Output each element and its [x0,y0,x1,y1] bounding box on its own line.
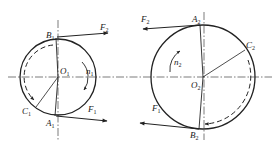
right-tension-F1-arrow [140,123,199,129]
label-F1-left: F1 [87,104,97,115]
label-O1: O1 [60,66,70,77]
label-n2: n2 [174,57,182,68]
right-tension-F2-arrow [143,25,200,29]
label-n1: n1 [86,66,94,77]
label-O2: O2 [191,80,201,91]
right-pulley: A2 B2 C2 O2 n2 F2 F1 [140,12,255,141]
label-B1: B1 [46,30,55,41]
label-A2: A2 [191,14,201,25]
belt-drive-diagram: B1 A1 C1 O1 n1 F2 F1 A2 B2 C2 O2 n2 F2 F… [0,0,276,157]
label-F2-right: F2 [140,14,150,25]
right-radius-A2 [200,25,203,77]
left-tension-F1-arrow [56,116,107,121]
left-radius-C1 [36,77,58,107]
label-F2-left: F2 [99,22,109,33]
left-radius-A1 [55,77,58,116]
label-C1: C1 [22,106,31,117]
label-A1: A1 [45,118,55,129]
left-pulley: B1 A1 C1 O1 n1 F2 F1 [20,20,109,140]
left-tension-F2-arrow [57,33,108,37]
label-C2: C2 [246,40,255,51]
right-sliding-arc-arrows [205,60,251,124]
right-radius-C2 [203,50,245,77]
label-B2: B2 [190,130,199,141]
